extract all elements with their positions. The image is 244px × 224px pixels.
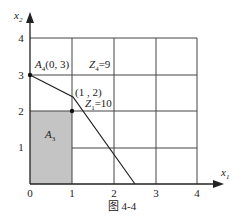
region-a3 <box>30 111 72 184</box>
svg-text:3: 3 <box>18 69 24 81</box>
svg-text:1: 1 <box>69 187 75 199</box>
x-axis-arrow-icon <box>213 180 224 188</box>
svg-text:4: 4 <box>194 187 200 199</box>
x-tick-labels: 0 1 2 3 4 <box>27 187 200 199</box>
point-1-2 <box>70 109 74 113</box>
svg-text:4: 4 <box>18 32 24 44</box>
label-z1: Z1=10 <box>85 97 112 112</box>
y-axis-label: x2 <box>13 9 23 24</box>
svg-text:0: 0 <box>27 187 33 199</box>
y-tick-labels: 1 2 3 4 <box>18 32 24 153</box>
label-a4: A4(0, 3) <box>34 58 69 73</box>
lp-figure: x2 x1 1 2 3 4 0 1 2 3 4 A4(0, 3) Z4=9 (1… <box>0 0 244 224</box>
svg-text:1: 1 <box>18 141 24 153</box>
figure-caption: 图 4-4 <box>108 200 137 212</box>
point-a4 <box>28 73 32 77</box>
x-axis-label: x1 <box>220 166 229 181</box>
svg-text:2: 2 <box>111 187 117 199</box>
label-z4: Z4=9 <box>89 58 111 73</box>
y-axis-arrow-icon <box>26 12 34 23</box>
svg-text:3: 3 <box>153 187 159 199</box>
svg-text:2: 2 <box>18 105 24 117</box>
